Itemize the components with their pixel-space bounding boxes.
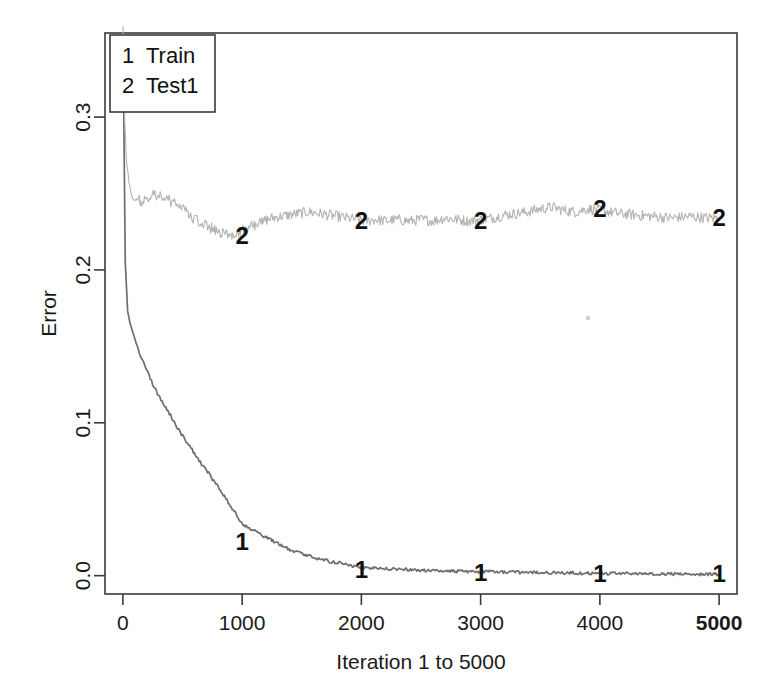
legend-key-test1: 2 [122,73,134,98]
plot-frame [105,33,737,594]
y-axis-title: Error [37,290,60,337]
y-axis-tick-label: 0.3 [72,102,95,131]
series-marker-train: 1 [593,560,606,587]
series-line-train [123,37,719,575]
series-marker-train: 1 [355,556,368,583]
chart-canvas: 0100020003000400050000.00.10.20.3 111112… [0,0,778,694]
x-axis-tick-label: 0 [117,611,129,634]
axis-titles-layer: Iteration 1 to 5000Error [37,290,506,673]
x-axis-tick-label: 4000 [577,611,624,634]
legend-label-train: Train [146,43,195,68]
series-marker-train: 1 [235,528,248,555]
series-marker-train: 1 [712,560,725,587]
axes-layer: 0100020003000400050000.00.10.20.3 [72,33,743,634]
y-axis-tick-label: 0.0 [72,561,95,590]
error-curve-figure: 0100020003000400050000.00.10.20.3 111112… [0,0,778,694]
scan-artifact-speck [586,316,590,320]
x-axis-tick-label: 1000 [219,611,266,634]
series-marker-test1: 2 [235,222,248,249]
x-axis-tick-label: 3000 [457,611,504,634]
x-axis-tick-label: 5000 [696,611,743,634]
series-markers-layer: 1111122222 [235,195,725,587]
y-axis-tick-label: 0.1 [72,408,95,437]
legend-label-test1: Test1 [146,73,199,98]
series-marker-train: 1 [474,559,487,586]
y-axis-tick-label: 0.2 [72,255,95,284]
series-marker-test1: 2 [712,204,725,231]
series-marker-test1: 2 [355,207,368,234]
series-marker-test1: 2 [593,195,606,222]
chart-legend: 1Train2Test1 [110,35,215,112]
x-axis-tick-label: 2000 [338,611,385,634]
series-marker-test1: 2 [474,207,487,234]
legend-key-train: 1 [122,43,134,68]
x-axis-title: Iteration 1 to 5000 [336,650,505,673]
